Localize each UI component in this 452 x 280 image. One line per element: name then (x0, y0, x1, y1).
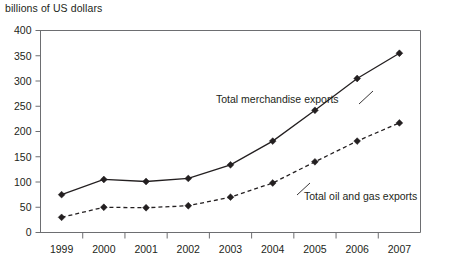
plot-frame (40, 30, 421, 233)
merchandise-series-label: Total merchandise exports (216, 93, 339, 105)
y-tick-label-300: 300 (14, 75, 32, 87)
x-tick-label-2000: 2000 (92, 243, 116, 255)
y-tick-label-0: 0 (26, 226, 32, 238)
x-tick-label-2003: 2003 (219, 243, 243, 255)
y-axis-tick-labels: 050100150200250300350400 (14, 24, 32, 238)
data-point-marker (143, 178, 150, 185)
y-tick-label-350: 350 (14, 50, 32, 62)
y-tick-label-50: 50 (20, 201, 32, 213)
data-point-marker (396, 120, 403, 127)
merchandise-leader-line (359, 91, 373, 104)
data-point-marker (58, 191, 65, 198)
data-point-marker (227, 194, 234, 201)
data-point-marker (312, 158, 319, 165)
x-tick-label-2001: 2001 (134, 243, 158, 255)
x-tick-label-2004: 2004 (261, 243, 285, 255)
x-tick-label-2006: 2006 (345, 243, 369, 255)
y-tick-label-100: 100 (14, 176, 32, 188)
data-point-marker (100, 176, 107, 183)
data-point-marker (185, 202, 192, 209)
x-axis-ticks (83, 233, 379, 239)
y-tick-label-150: 150 (14, 151, 32, 163)
y-tick-label-400: 400 (14, 24, 32, 36)
data-point-marker (269, 180, 276, 187)
x-tick-label-2002: 2002 (177, 243, 201, 255)
y-tick-label-250: 250 (14, 100, 32, 112)
data-point-marker (58, 214, 65, 221)
oil-gas-series-label: Total oil and gas exports (304, 190, 417, 202)
x-tick-label-2005: 2005 (303, 243, 327, 255)
y-tick-label-200: 200 (14, 125, 32, 137)
data-point-marker (100, 204, 107, 211)
y-axis-ticks (36, 31, 41, 233)
chart-page: billions of US dollars 05010015020025030… (0, 0, 452, 280)
data-point-marker (143, 204, 150, 211)
data-point-marker (227, 161, 234, 168)
data-point-marker (354, 138, 361, 145)
x-tick-label-1999: 1999 (50, 243, 74, 255)
data-point-marker (396, 50, 403, 57)
data-point-marker (185, 175, 192, 182)
line-chart: 050100150200250300350400 199920002001200… (0, 0, 452, 280)
x-axis-tick-labels: 199920002001200220032004200520062007 (50, 243, 411, 255)
series-line-1 (62, 53, 400, 194)
series-line-2 (62, 123, 400, 217)
x-tick-label-2007: 2007 (388, 243, 412, 255)
